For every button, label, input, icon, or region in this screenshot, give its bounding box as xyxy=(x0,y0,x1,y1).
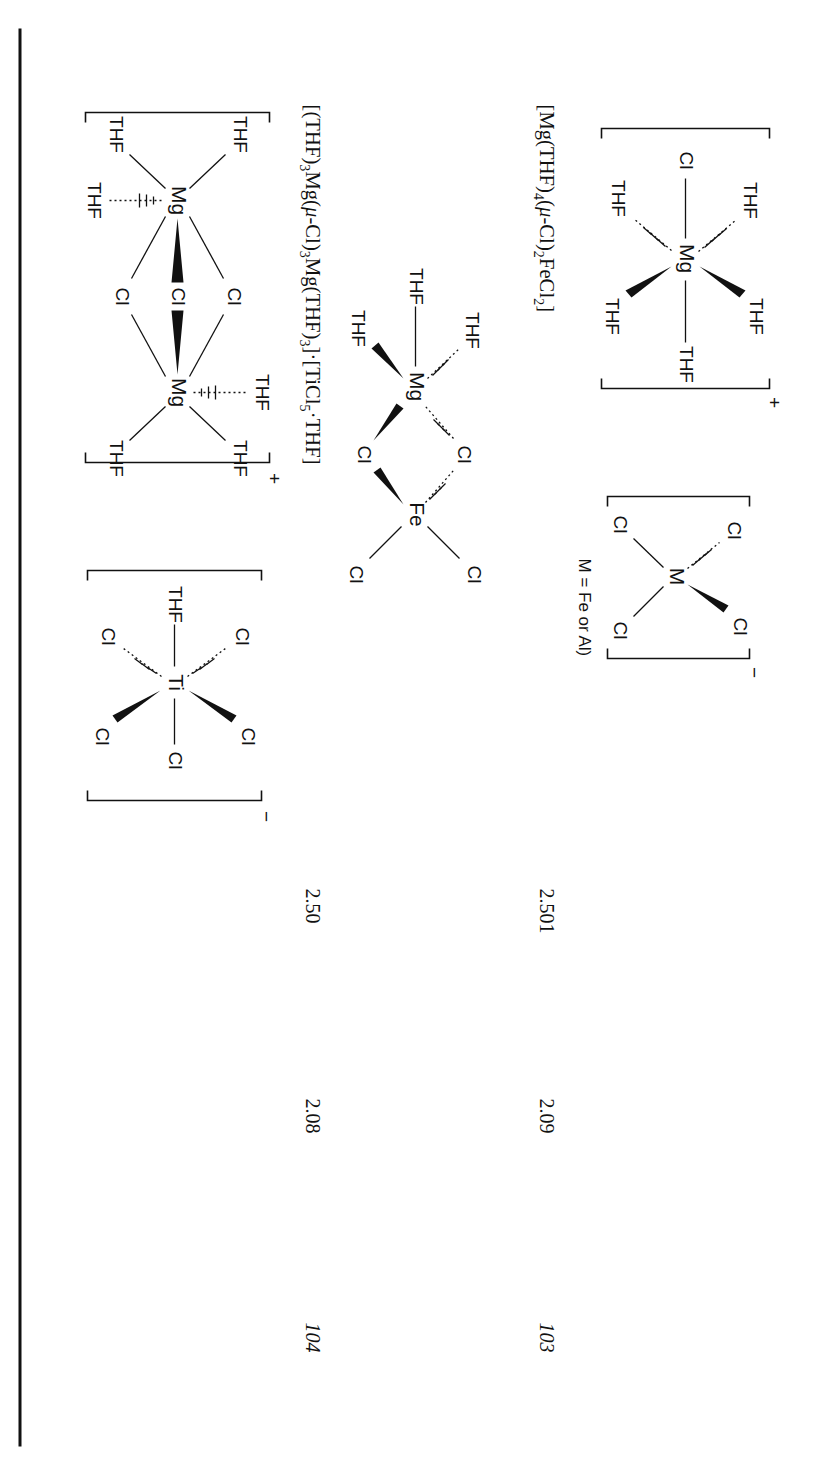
formula-103-text: [Mg(THF)4(μ-Cl)2FeCl2] xyxy=(535,104,557,312)
bond-m-cl-hashed-upper-left xyxy=(687,542,719,568)
bond-mgright-thf-hashed xyxy=(193,385,247,399)
bond-mgleft-cl-upper xyxy=(189,216,223,278)
bond-mgright-cl-lower xyxy=(131,314,165,376)
bond-length-b-104: 2.08 xyxy=(300,1098,323,1133)
structure-ticl5-thf-anion: − Ti THF Cl Cl Cl xyxy=(61,546,287,846)
atom-label-cl-bridge-middle: Cl xyxy=(168,287,189,305)
atom-label-mg: Mg xyxy=(675,243,698,272)
table-bottom-rule xyxy=(18,28,21,1446)
bond-mgright-cl-middle-wedge xyxy=(171,310,183,374)
ligand-label-thf-lower-left: THF xyxy=(608,180,629,217)
ligand-label-thf-left-lower: THF xyxy=(106,116,127,153)
ligand-label-thf-left-upper: THF xyxy=(230,116,251,153)
atom-label-mg-left: Mg xyxy=(167,185,190,214)
atom-label-m: M xyxy=(665,567,688,585)
bond-mgleft-thf-upper xyxy=(189,154,225,188)
structure-mg2-cl3-dimer-cation: + Mg Mg Cl Cl Cl THF THF xyxy=(59,96,295,496)
atom-label-mg-center: Mg xyxy=(405,371,428,400)
bond-mgleft-cl-lower xyxy=(131,216,165,278)
atom-label-cl-lower-left: Cl xyxy=(610,515,631,533)
atom-label-ti: Ti xyxy=(164,674,187,691)
bond-fe-clbridge-hashed-upper xyxy=(425,470,453,502)
ligand-label-thf-left-bottom: THF xyxy=(84,182,105,219)
bond-m-cl-wedge-upper-right xyxy=(687,584,728,612)
bond-fe-cl-upper xyxy=(427,526,459,558)
ligand-label-thf-ti: THF xyxy=(165,586,186,623)
ligand-label-thf-right-upper: THF xyxy=(230,440,251,477)
bond-mgright-cl-upper xyxy=(189,314,223,376)
bracket-right xyxy=(87,790,261,800)
atom-label-cl-upper-left: Cl xyxy=(232,627,253,645)
bond-length-a-104: 2.50 xyxy=(300,888,323,923)
compound-number-104: 104 xyxy=(300,1322,323,1352)
atom-label-cl-left: Cl xyxy=(676,151,697,169)
charge-minus-symbol: − xyxy=(744,666,765,677)
formula-caption-103: [Mg(THF)4(μ-Cl)2FeCl2] xyxy=(530,104,557,312)
bond-length-b-103: 2.09 xyxy=(534,1098,557,1133)
bond-ti-cl-wedge-lower-right xyxy=(112,690,160,722)
bond-mgright-thf-lower xyxy=(129,406,165,440)
bond-m-cl-lower-right xyxy=(633,586,663,616)
ligand-label-thf-left: THF xyxy=(406,268,427,305)
atom-label-cl-bridge-upper: Cl xyxy=(454,445,475,463)
ligand-label-thf-right: THF xyxy=(676,346,697,383)
bond-mgright-thf-upper xyxy=(189,406,225,440)
bond-mg-thf-hashed-upper-left xyxy=(427,348,459,378)
bond-mg-thf-hashed-upper-left xyxy=(698,220,735,251)
atom-label-cl-lower-right: Cl xyxy=(610,621,631,639)
atom-label-cl-lower-right: Cl xyxy=(92,727,113,745)
ligand-label-thf-upper-left: THF xyxy=(740,182,761,219)
bracket-left xyxy=(87,570,261,580)
structure-mg-thf5-cl-cation: + Mg Cl THF THF THF xyxy=(577,120,797,420)
structure-mcl4-anion: − M Cl Cl Cl Cl xyxy=(583,470,773,700)
bracket-right xyxy=(607,648,749,658)
atom-label-cl-lower-left: Cl xyxy=(98,627,119,645)
bond-mg-thf-wedge-upper-right xyxy=(699,266,745,297)
atom-label-cl-fe-lower: Cl xyxy=(346,565,367,583)
ligand-label-thf-lower-left: THF xyxy=(348,310,369,347)
ligand-label-thf-right-top: THF xyxy=(252,374,273,411)
ligand-label-thf-upper-right: THF xyxy=(746,298,767,335)
bond-mgleft-thf-lower xyxy=(129,154,165,188)
atom-label-cl-upper-right: Cl xyxy=(730,617,751,635)
bond-mg-clbridge-wedge-lower xyxy=(373,403,403,440)
atom-label-cl-bridge-lower: Cl xyxy=(112,287,133,305)
charge-minus-symbol: − xyxy=(256,810,277,821)
atom-label-cl-upper-left: Cl xyxy=(724,521,745,539)
compound-number-103: 103 xyxy=(534,1322,557,1352)
atom-label-cl-bridge-lower: Cl xyxy=(354,445,375,463)
bracket-left xyxy=(607,496,749,506)
ligand-label-thf-right-lower: THF xyxy=(106,440,127,477)
bond-ti-cl-hashed-lower-left xyxy=(123,648,161,676)
ligand-label-thf-upper-left: THF xyxy=(462,312,483,349)
m-definition-note: M = Fe or Al) xyxy=(573,558,593,656)
atom-label-fe: Fe xyxy=(405,502,428,527)
atom-label-mg-right: Mg xyxy=(167,377,190,406)
bond-mgleft-cl-middle-wedge xyxy=(171,218,183,282)
rotated-page-stage: 103 2.09 2.501 104 2.08 2.50 [Mg(THF)4(μ… xyxy=(0,0,815,1475)
bond-mgleft-thf-hashed xyxy=(107,193,161,207)
atom-label-cl-upper-right: Cl xyxy=(238,727,259,745)
bond-mg-thf-wedge-lower-right xyxy=(625,266,671,297)
bond-mg-clbridge-hashed-upper xyxy=(425,406,453,438)
atom-label-cl-fe-upper: Cl xyxy=(464,565,485,583)
bond-length-a-103: 2.501 xyxy=(534,888,557,933)
ligand-label-thf-lower-right: THF xyxy=(602,298,623,335)
bond-ti-cl-wedge-upper-right xyxy=(188,690,236,722)
charge-plus-symbol: + xyxy=(764,396,785,407)
atom-label-cl-right: Cl xyxy=(165,751,186,769)
atom-label-cl-bridge-upper: Cl xyxy=(224,287,245,305)
bond-ti-cl-hashed-upper-left xyxy=(187,648,225,676)
bracket-left xyxy=(601,128,769,138)
structure-mg-clbridge-fecl2: Fe Cl Cl Cl Cl xyxy=(315,258,515,608)
bond-mg-thf-hashed-lower-left xyxy=(633,218,671,250)
bond-mg-thf-wedge-lower-left xyxy=(371,342,403,378)
bond-m-cl-lower-left xyxy=(633,538,663,567)
bond-fe-clbridge-wedge-lower xyxy=(373,467,403,504)
charge-plus-symbol: + xyxy=(264,472,285,483)
bond-fe-cl-lower xyxy=(369,526,401,558)
